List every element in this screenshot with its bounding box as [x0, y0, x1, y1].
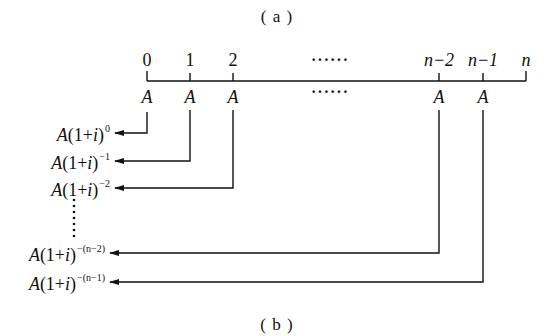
tick-label-n-1: n−1 [468, 51, 498, 69]
timeline-axis [147, 71, 526, 81]
present-value-0: A(1+i)0 [57, 124, 110, 144]
present-value-1: A(1+i)−1 [51, 152, 110, 172]
payment-label-n-1: A [478, 88, 489, 106]
ellipsis-top: ······ [311, 52, 349, 68]
present-value-n-2: A(1+i)−(n−2) [29, 244, 105, 264]
tick-label-0: 0 [143, 51, 152, 69]
tick-label-1: 1 [186, 51, 195, 69]
payment-label-1: A [185, 88, 196, 106]
tick-label-n-2: n−2 [424, 51, 454, 69]
ellipsis-bottom: ······ [311, 84, 349, 100]
caption-b: ( b ) [260, 316, 293, 333]
present-value-n-1: A(1+i)−(n−1) [29, 273, 105, 293]
tick-label-2: 2 [229, 51, 238, 69]
payment-label-n-2: A [434, 88, 445, 106]
tick-label-n: n [522, 51, 531, 69]
vertical-ellipsis [73, 199, 76, 238]
caption-a: ( a ) [261, 8, 293, 25]
payment-label-2: A [228, 88, 239, 106]
present-value-2: A(1+i)−2 [51, 179, 110, 199]
payment-label-0: A [142, 88, 153, 106]
discount-arrows [110, 110, 483, 282]
